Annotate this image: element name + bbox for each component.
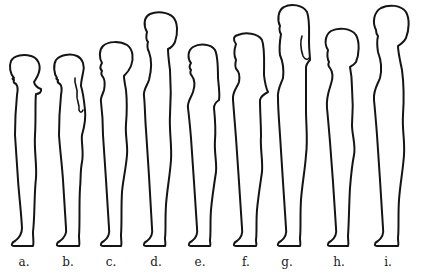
figure-label-d: d. (141, 255, 171, 269)
figure-label-e: e. (185, 255, 215, 269)
silhouette-i (374, 6, 409, 246)
silhouette-b (54, 55, 85, 246)
silhouette-h (326, 29, 359, 246)
silhouette-f (233, 33, 268, 246)
silhouette-e (188, 45, 220, 246)
figure-label-g: g. (272, 255, 302, 269)
figure-label-i: i. (373, 255, 403, 269)
figure-label-f: f. (231, 255, 261, 269)
figure-label-a: a. (9, 255, 39, 269)
silhouette-d (144, 12, 177, 246)
figure-label-h: h. (324, 255, 354, 269)
silhouette-g (278, 5, 310, 246)
figure-label-c: c. (96, 255, 126, 269)
silhouette-a (10, 55, 41, 246)
silhouette-c (100, 42, 133, 246)
body-silhouettes-illustration (0, 0, 425, 273)
figure-label-b: b. (53, 255, 83, 269)
